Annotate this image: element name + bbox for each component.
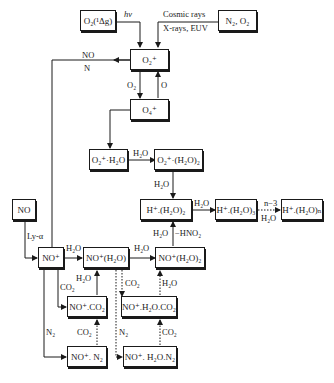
label-o: O	[161, 81, 167, 90]
label-h2o-c: H₂O	[194, 199, 209, 208]
label-no: NO	[82, 51, 94, 60]
label-co2-a: CO₂	[60, 283, 75, 292]
node-h-plus-h2o-2: H⁺.(H₂O)₂	[140, 199, 192, 220]
label-xrays-euv: X-rays, EUV	[163, 24, 208, 33]
label-h2o-i: H₂O	[162, 279, 177, 288]
node-o2-plus-h2o-2: O₂⁺·(H₂O)₂	[154, 149, 203, 170]
label-n: N	[84, 64, 90, 73]
node-no-plus-co2: NO⁺.CO₂	[67, 296, 107, 317]
node-no-plus-h2o-co2: NO⁺.H₂O.CO₂	[121, 296, 177, 317]
label-n2-b: N₂	[119, 328, 128, 337]
label-h2o-a: H₂O	[133, 149, 148, 158]
label-h2o-h: H₂O	[76, 274, 91, 283]
label-co2-d: CO₂	[162, 328, 177, 337]
node-o2-plus-h2o: O₂⁺·H₂O	[89, 149, 128, 170]
node-no-plus-n2: NO⁺. N₂	[67, 346, 107, 367]
label-co2-c: CO₂	[77, 328, 92, 337]
label-h2o-e: H₂O	[153, 229, 168, 238]
label-lyman-alpha: Ly-α	[27, 232, 43, 241]
label-hv: hν	[124, 10, 132, 19]
node-h-plus-h2o-n: H⁺.(H₂O)ₙ	[281, 199, 323, 220]
label-cosmic-rays: Cosmic rays	[163, 10, 205, 19]
label-o2: O₂	[127, 81, 136, 90]
node-no-plus-h2o-2: NO⁺(H₂O)₂	[155, 247, 205, 268]
label-n2-a: N₂	[46, 328, 55, 337]
label-h2o-d: H₂O	[261, 214, 276, 223]
label-h2o-b: H₂O	[154, 180, 169, 189]
label-h2o-f: H₂O	[66, 244, 81, 253]
node-o2-singlet-delta: O₂(¹Δg)	[80, 10, 116, 31]
node-o4-plus: O₄⁺	[130, 99, 169, 120]
label-h2o-g: H₂O	[134, 244, 149, 253]
node-no-plus: NO⁺	[38, 247, 64, 268]
node-no-plus-h2o: NO⁺(H₂O)	[83, 247, 129, 268]
node-no-plus-h2o-n2: NO⁺. H₂O.N₂	[123, 346, 177, 367]
label-co2-b: CO₂	[125, 279, 140, 288]
node-no: NO	[12, 199, 36, 220]
node-n2-o2: N₂, O₂	[218, 10, 257, 31]
node-h-plus-h2o-3: H⁺.(H₂O)₃	[215, 199, 257, 220]
node-o2-plus: O₂⁺	[130, 49, 169, 70]
label-n-minus-3: n−3	[264, 199, 277, 208]
label-minus-hno2: −HNO₂	[175, 229, 201, 238]
